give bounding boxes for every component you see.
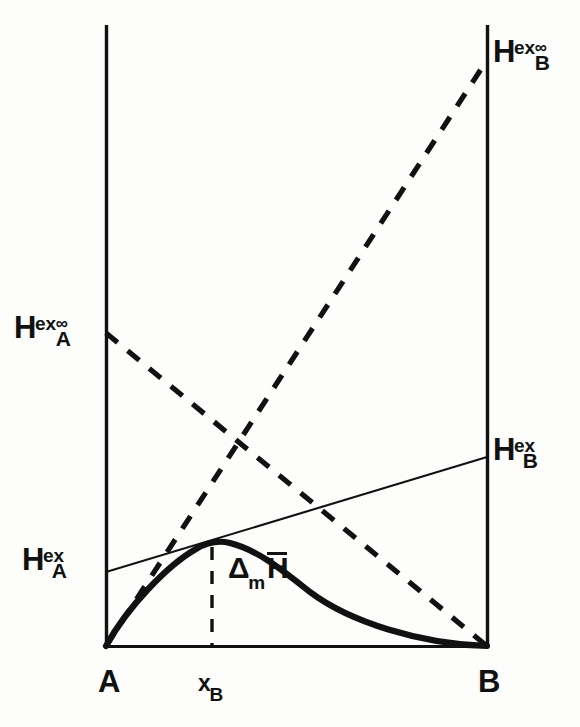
label-HA-ex-subscript: A bbox=[52, 559, 67, 582]
h-bar-letter: H bbox=[267, 551, 288, 584]
label-HA-excess: HexA bbox=[22, 544, 80, 577]
label-HB-infinite-dilution: Hex∞B bbox=[493, 36, 563, 69]
label-HA-ex-base: H bbox=[22, 544, 44, 575]
excess-enthalpy-curve bbox=[106, 542, 487, 646]
partial-molar-B-line bbox=[106, 60, 487, 646]
label-HB-ex-base: H bbox=[493, 434, 515, 465]
partial-molar-A-line bbox=[106, 333, 487, 646]
plot-canvas bbox=[0, 0, 580, 727]
tick-label-subscript: B bbox=[210, 684, 223, 705]
axis-label-A: A bbox=[98, 666, 120, 697]
tick-label-base: x bbox=[198, 670, 211, 696]
excess-enthalpy-figure: Hex∞A Hex∞B HexA HexB ΔmH A B xB bbox=[0, 0, 580, 727]
overline-bar bbox=[267, 552, 287, 555]
axis-tick-label-xB: xB bbox=[198, 672, 224, 700]
label-mixing-enthalpy: ΔmH bbox=[228, 553, 288, 588]
delta-subscript-m: m bbox=[248, 572, 265, 593]
label-HA-infinite-dilution: Hex∞A bbox=[14, 312, 84, 345]
label-HB-inf-subscript: B bbox=[535, 51, 550, 74]
axis-label-B: B bbox=[478, 666, 500, 697]
delta-symbol: Δ bbox=[228, 551, 249, 584]
label-HA-inf-base: H bbox=[14, 312, 36, 343]
label-HB-inf-base: H bbox=[493, 36, 515, 67]
label-HB-excess: HexB bbox=[493, 434, 551, 467]
tangent-line bbox=[106, 457, 487, 572]
label-HB-inf-sup-text: ex bbox=[514, 37, 535, 58]
label-HA-inf-subscript: A bbox=[56, 327, 71, 350]
label-HB-ex-subscript: B bbox=[523, 449, 538, 472]
h-bar-symbol: H bbox=[266, 553, 288, 583]
label-HA-inf-sup-text: ex bbox=[35, 313, 56, 334]
